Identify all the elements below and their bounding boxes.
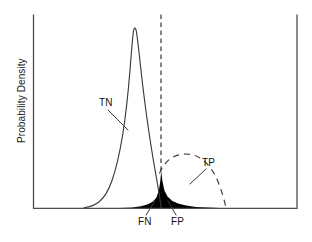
tp-leader-line [190,169,206,184]
annotation-fp: FP [171,216,184,227]
negative-class-curve [84,28,161,208]
annotation-tp: TP [202,157,215,168]
chart-canvas [0,0,312,242]
annotation-tn: TN [99,97,113,108]
annotation-fn: FN [138,216,152,227]
probability-density-figure: Probability Density TN TP FN FP [0,0,312,242]
y-axis-label: Probability Density [16,58,27,143]
overlap-shaded-region [120,171,220,208]
